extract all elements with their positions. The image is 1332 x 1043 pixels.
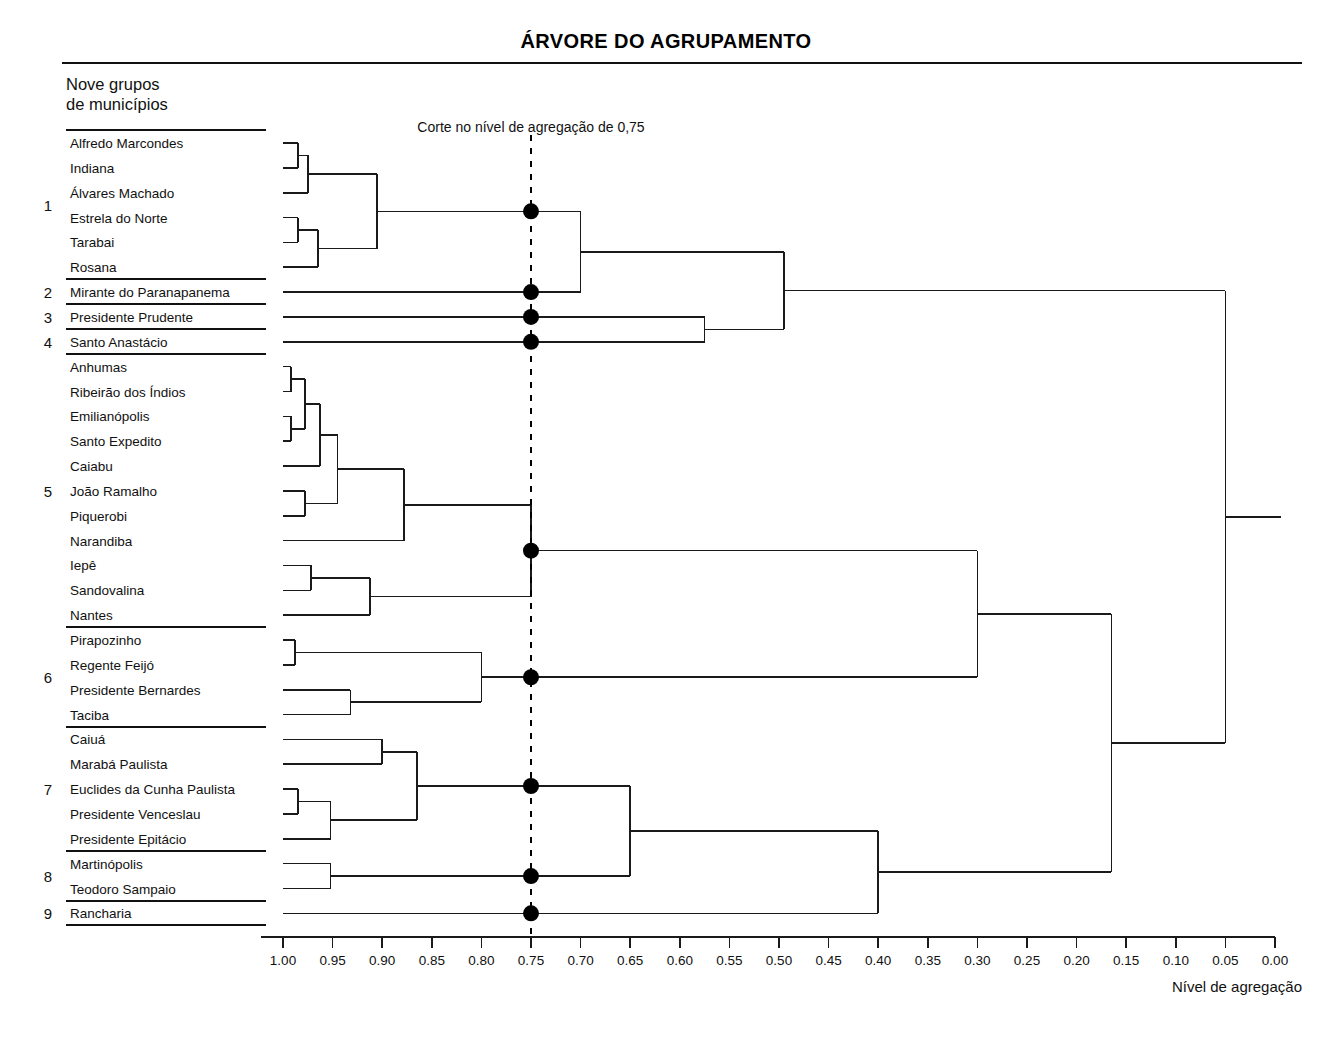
cut-annotation: Corte no nível de agregação de 0,75 — [417, 119, 644, 135]
leaf-label: Martinópolis — [70, 856, 143, 871]
group-number-9: 9 — [44, 905, 52, 922]
group-divider — [66, 924, 266, 926]
leaf-label: Santo Anastácio — [70, 334, 168, 349]
x-axis-tick-label: 1.00 — [270, 953, 296, 968]
dendrogram-page: ÁRVORE DO AGRUPAMENTO Nove grupos de mun… — [0, 0, 1332, 1043]
group-divider — [66, 278, 266, 280]
x-axis-tick-label: 0.20 — [1063, 953, 1089, 968]
leaf-label: Iepê — [70, 558, 96, 573]
leaf-label: Presidente Prudente — [70, 309, 193, 324]
group-divider — [66, 726, 266, 728]
group-5-cut[interactable] — [523, 543, 539, 559]
group-1-cut[interactable] — [523, 203, 539, 219]
x-axis-tick-label: 0.50 — [766, 953, 792, 968]
leaf-label: Santo Expedito — [70, 434, 162, 449]
x-axis-tick-label: 0.55 — [716, 953, 742, 968]
group-number-1: 1 — [44, 197, 52, 214]
x-axis-tick-label: 0.25 — [1014, 953, 1040, 968]
group-3-cut[interactable] — [523, 309, 539, 325]
leaf-label: Estrela do Norte — [70, 210, 168, 225]
leaf-label: Regente Feijó — [70, 657, 154, 672]
leaf-label: Mirante do Paranapanema — [70, 285, 230, 300]
leaf-label: Rancharia — [70, 906, 132, 921]
group-divider — [66, 303, 266, 305]
leaf-label: Indiana — [70, 160, 114, 175]
x-axis-tick-label: 0.85 — [419, 953, 445, 968]
leaf-label: Piquerobi — [70, 508, 127, 523]
x-axis-tick-label: 0.60 — [667, 953, 693, 968]
group-divider — [66, 129, 266, 131]
leaf-label: Tarabai — [70, 235, 114, 250]
x-axis-tick-label: 0.15 — [1113, 953, 1139, 968]
leaf-label: Emilianópolis — [70, 409, 150, 424]
x-axis-tick-label: 0.35 — [915, 953, 941, 968]
leaf-label: Alfredo Marcondes — [70, 136, 183, 151]
group-number-4: 4 — [44, 333, 52, 350]
group-7-cut[interactable] — [523, 778, 539, 794]
group-divider — [66, 328, 266, 330]
tree-links — [283, 143, 1281, 913]
group-9-cut[interactable] — [523, 905, 539, 921]
x-axis-tick-label: 0.05 — [1212, 953, 1238, 968]
leaf-label: Anhumas — [70, 359, 127, 374]
leaf-label: Caiuá — [70, 732, 105, 747]
group-divider — [66, 900, 266, 902]
x-axis-tick-label: 0.30 — [964, 953, 990, 968]
leaf-label: Presidente Venceslau — [70, 806, 201, 821]
x-axis-tick-label: 0.40 — [865, 953, 891, 968]
x-axis-tick-label: 0.65 — [617, 953, 643, 968]
x-axis-tick-label: 0.90 — [369, 953, 395, 968]
group-number-2: 2 — [44, 284, 52, 301]
x-axis-tick-label: 0.95 — [319, 953, 345, 968]
group-2-cut[interactable] — [523, 284, 539, 300]
group-divider — [66, 353, 266, 355]
group-divider — [66, 850, 266, 852]
leaf-label: Presidente Epitácio — [70, 831, 186, 846]
leaf-label: Rosana — [70, 260, 117, 275]
leaf-label: Nantes — [70, 608, 113, 623]
group-6-cut[interactable] — [523, 669, 539, 685]
leaf-label: Pirapozinho — [70, 633, 141, 648]
leaf-label: Teodoro Sampaio — [70, 881, 176, 896]
leaf-label: Euclides da Cunha Paulista — [70, 782, 235, 797]
x-axis-tick-label: 0.10 — [1163, 953, 1189, 968]
group-divider — [66, 626, 266, 628]
group-8-cut[interactable] — [523, 868, 539, 884]
x-axis-tick-label: 0.70 — [567, 953, 593, 968]
group-number-6: 6 — [44, 669, 52, 686]
leaf-label: Marabá Paulista — [70, 757, 168, 772]
x-axis-tick-label: 0.45 — [815, 953, 841, 968]
group-4-cut[interactable] — [523, 334, 539, 350]
group-number-8: 8 — [44, 868, 52, 885]
x-axis-label: Nível de agregação — [1172, 978, 1302, 995]
leaf-label: Caiabu — [70, 459, 113, 474]
x-axis-tick-label: 0.00 — [1262, 953, 1288, 968]
group-number-7: 7 — [44, 781, 52, 798]
x-axis-tick-label: 0.75 — [518, 953, 544, 968]
dendrogram-canvas — [0, 0, 1332, 1043]
leaf-label: Presidente Bernardes — [70, 682, 201, 697]
leaf-label: Álvares Machado — [70, 185, 174, 200]
leaf-label: João Ramalho — [70, 483, 157, 498]
group-number-3: 3 — [44, 308, 52, 325]
leaf-label: Narandiba — [70, 533, 132, 548]
leaf-label: Ribeirão dos Índios — [70, 384, 186, 399]
leaf-label: Sandovalina — [70, 583, 144, 598]
x-axis-tick-label: 0.80 — [468, 953, 494, 968]
leaf-label: Taciba — [70, 707, 109, 722]
group-number-5: 5 — [44, 482, 52, 499]
